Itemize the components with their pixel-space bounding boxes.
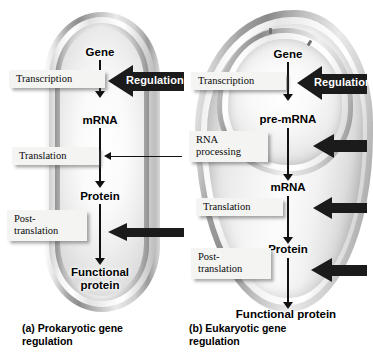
node-functional-protein: Functional protein [58, 266, 142, 292]
label-transcription: Transcription [9, 70, 105, 88]
panel-eukaryotic: Gene pre-mRNA mRNA Protein Functional pr… [183, 0, 367, 330]
arrow-gene-to-premrna-shaft [287, 62, 289, 96]
arrow-mrna-to-protein-head [95, 181, 105, 188]
arrow-premrna-to-mrna-shaft [287, 128, 289, 176]
arrow-protein-to-functional-shaft [99, 204, 101, 260]
regulation-label: Regulation [314, 76, 372, 88]
label-translation: Translation [196, 198, 283, 216]
node-functional-protein: Functional protein [217, 308, 355, 321]
arrow-protein-to-functional-shaft [287, 258, 289, 304]
node-protein: Protein [70, 190, 130, 203]
node-gene: Gene [263, 48, 313, 61]
label-translation: Translation [12, 147, 99, 165]
caption-prokaryotic: (a) Prokaryotic gene regulation [22, 322, 123, 348]
regulation-label: Regulation [126, 74, 184, 86]
label-transcription: Transcription [191, 72, 286, 90]
arrow-gene-to-premrna-head [283, 94, 293, 101]
label-post-translation: Post- translation [191, 248, 271, 279]
node-mrna: mRNA [260, 181, 316, 194]
caption-eukaryotic: (b) Eukaryotic gene regulation [189, 322, 286, 348]
arrow-mrna-to-protein-shaft [287, 196, 289, 239]
arrow-protein-to-functional-head [95, 258, 105, 265]
arrow-mrna-to-protein-shaft [99, 128, 101, 183]
arrow-gene-to-mrna-head [95, 91, 105, 98]
arrow-premrna-to-mrna-head [283, 174, 293, 181]
translation-line-arrow [104, 152, 182, 161]
node-mrna: mRNA [72, 114, 128, 127]
panel-prokaryotic: Gene mRNA Protein Functional protein Tra… [0, 0, 184, 330]
node-pre-mrna: pre-mRNA [245, 113, 331, 126]
node-gene: Gene [75, 46, 125, 59]
nuclear-pore-icon [269, 28, 272, 34]
label-post-translation: Post- translation [7, 210, 87, 241]
label-rna-processing: RNA processing [189, 131, 268, 162]
